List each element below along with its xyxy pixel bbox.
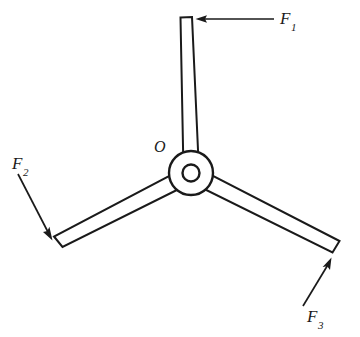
force-1-label: F1 [280,10,296,30]
center-point-label-base: O [154,138,166,155]
force-3-label-sub: 3 [318,319,324,331]
force-2-label-sub: 2 [23,166,29,178]
force-2-label-base: F [12,154,22,173]
force-3-label-base: F [307,307,317,326]
force-3-label: F3 [307,308,323,328]
rotor-arm-top [181,17,200,172]
rotor-diagram [0,0,360,337]
force-arrow-2-head [43,227,53,241]
force-2-label: F2 [12,155,28,175]
force-1-label-base: F [280,9,290,28]
figure-canvas: O F1 F2 F3 [0,0,360,337]
center-point-label: O [154,139,166,155]
force-arrow-3-head [323,258,332,271]
rotor-hub-hole [183,165,200,182]
force-1-label-sub: 1 [291,21,297,33]
force-arrow-2-line [18,174,49,234]
force-arrow-3-line [303,263,329,306]
